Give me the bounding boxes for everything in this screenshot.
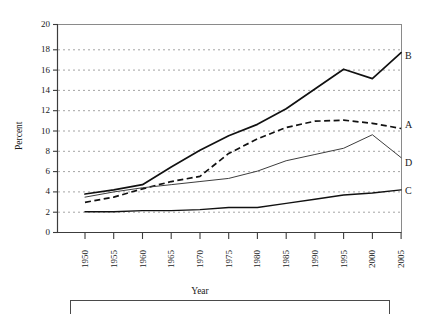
gridlines	[58, 50, 401, 212]
series-label-b: B	[405, 51, 412, 61]
ytick-label-4: 4	[28, 187, 50, 196]
ytick-label-8: 8	[28, 147, 50, 156]
xtick-label-1960: 1960	[139, 250, 148, 268]
ytick-label-14: 14	[28, 86, 50, 95]
xtick-label-1955: 1955	[110, 250, 119, 268]
series-label-a: A	[405, 120, 412, 130]
xtick-label-2000: 2000	[368, 250, 377, 268]
ytick-label-16: 16	[28, 66, 50, 75]
ytick-label-12: 12	[28, 106, 50, 115]
x-axis-title: Year	[170, 286, 230, 296]
xtick-label-1975: 1975	[225, 250, 234, 268]
xtick-label-1970: 1970	[196, 250, 205, 268]
xtick-label-1965: 1965	[167, 250, 176, 268]
ytick-label-6: 6	[28, 167, 50, 176]
ytick-label-18: 18	[28, 45, 50, 54]
series-label-d: D	[405, 158, 412, 168]
series-line-b	[85, 53, 401, 194]
xtick-label-1980: 1980	[253, 250, 262, 268]
ytick-label-0: 0	[28, 228, 50, 237]
ytick-label-10: 10	[28, 127, 50, 136]
xtick-label-1985: 1985	[282, 250, 291, 268]
ytick-label-2: 2	[28, 208, 50, 217]
footnote-box	[70, 300, 390, 314]
xtick-label-1950: 1950	[81, 250, 90, 268]
series-lines	[85, 53, 401, 212]
series-line-d	[85, 135, 401, 197]
x-tick-marks	[85, 233, 401, 239]
xtick-label-2005: 2005	[397, 250, 406, 268]
y-axis-title: Percent	[14, 122, 24, 151]
series-line-c	[85, 190, 401, 212]
ytick-label-20: 20	[28, 20, 50, 29]
series-label-c: C	[405, 186, 412, 196]
xtick-label-1995: 1995	[340, 250, 349, 268]
plot-frame	[57, 24, 402, 233]
series-line-a	[85, 120, 401, 202]
xtick-label-1990: 1990	[311, 250, 320, 268]
